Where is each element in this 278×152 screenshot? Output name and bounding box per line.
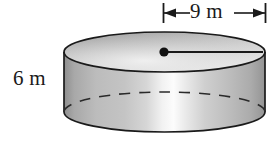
center-dot: [159, 47, 168, 56]
height-label: 6 m: [13, 68, 46, 89]
cylinder-body-group: [64, 32, 265, 132]
dimension-arrowhead-right-icon: [253, 9, 265, 18]
cylinder-figure: 9 m 6 m: [0, 0, 278, 152]
diameter-label: 9 m: [190, 1, 223, 22]
dimension-arrowhead-left-icon: [164, 9, 176, 18]
